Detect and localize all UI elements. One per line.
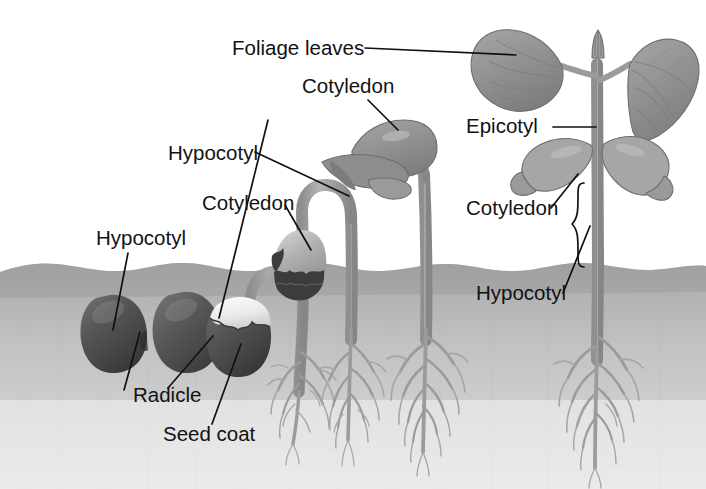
epicotyl-6: [597, 64, 598, 268]
label-hypocotyl-upper-left: Hypocotyl: [168, 141, 258, 164]
label-cotyledon-mid-left: Cotyledon: [202, 191, 294, 214]
hypocotyl-6: [597, 250, 598, 360]
label-hypocotyl-right: Hypocotyl: [476, 281, 566, 304]
label-hypocotyl-left: Hypocotyl: [96, 226, 186, 249]
label-seed-coat: Seed coat: [163, 422, 256, 445]
label-epicotyl: Epicotyl: [466, 114, 538, 137]
hypocotyl-4: [351, 214, 352, 340]
soil-bottom-fade: [0, 400, 706, 489]
hypocotyl-5: [424, 174, 426, 340]
label-cotyledon-top: Cotyledon: [302, 74, 394, 97]
diagram-canvas: Foliage leaves Cotyledon Hypocotyl Cotyl…: [0, 0, 706, 489]
label-radicle: Radicle: [133, 383, 201, 406]
label-cotyledon-right: Cotyledon: [466, 196, 558, 219]
germination-diagram: Foliage leaves Cotyledon Hypocotyl Cotyl…: [0, 0, 706, 489]
label-foliage-leaves: Foliage leaves: [232, 36, 364, 59]
